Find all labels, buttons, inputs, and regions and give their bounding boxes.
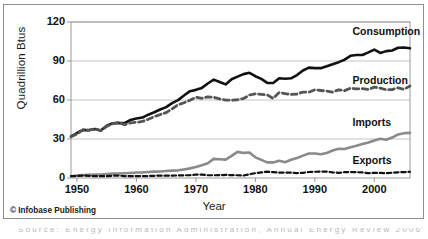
series-label-consumption: Consumption [352, 25, 420, 37]
y-tick-label: 60 [31, 93, 65, 105]
y-axis-label: Quadrillion Btus [15, 3, 27, 133]
x-tick-label: 1960 [114, 183, 158, 195]
y-tick-label: 120 [31, 15, 65, 27]
publisher-credit: © Infobase Publishing [10, 206, 96, 215]
x-tick-label: 1970 [174, 183, 218, 195]
bottom-caption-strip: Source: Energy Information Administratio… [0, 228, 428, 239]
y-tick-label: 0 [31, 171, 65, 183]
x-tick-label: 2000 [352, 183, 396, 195]
series-label-production: Production [352, 74, 407, 86]
series-label-exports: Exports [352, 154, 391, 166]
y-tick-label: 90 [31, 54, 65, 66]
x-tick-label: 1980 [233, 183, 277, 195]
x-tick-label: 1950 [55, 183, 99, 195]
series-label-imports: Imports [352, 116, 391, 128]
x-tick-label: 1990 [293, 183, 337, 195]
y-tick-label: 30 [31, 132, 65, 144]
chart-figure: Quadrillion Btus Year 0306090120 1950196… [0, 0, 428, 239]
bottom-caption: Source: Energy Information Administratio… [18, 228, 422, 234]
series-line-production [71, 86, 410, 137]
